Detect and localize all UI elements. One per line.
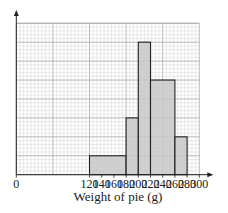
x-axis-label: Weight of pie (g) — [0, 189, 228, 205]
y-axis-arrow-icon — [14, 10, 19, 16]
histogram-bar — [138, 42, 150, 175]
histogram-bar — [175, 137, 187, 175]
histogram-bar — [126, 118, 138, 175]
histogram-bar — [151, 80, 175, 175]
histogram-bar — [90, 156, 127, 175]
histogram-chart: 0120140160180200220240260280300 — [0, 0, 228, 213]
